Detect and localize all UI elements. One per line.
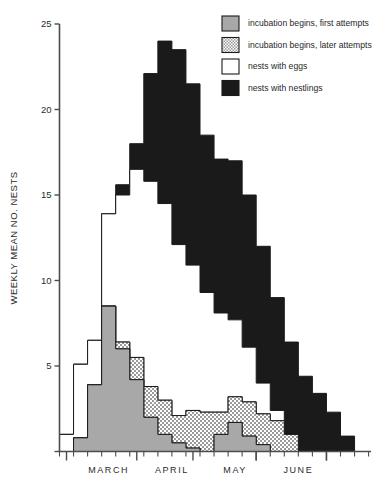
legend-swatch-solid-gray: [222, 16, 239, 31]
legend-label: nests with nestlings: [248, 83, 323, 93]
x-axis-label-march: MARCH: [88, 465, 129, 475]
y-tick-label-10: 10: [41, 275, 52, 286]
legend-swatch-checker-gray: [222, 38, 239, 53]
y-tick-label-5: 5: [46, 360, 51, 371]
legend-label: nests with eggs: [248, 61, 307, 71]
nest-phenology-chart: 510152025 MARCHAPRILMAYJUNE WEEKLY MEAN …: [0, 0, 392, 488]
chart-figure: 510152025 MARCHAPRILMAYJUNE WEEKLY MEAN …: [0, 0, 392, 488]
y-tick-label-25: 25: [41, 18, 52, 29]
x-axis-label-june: JUNE: [283, 465, 313, 475]
legend-swatch-white: [222, 59, 239, 74]
y-tick-label-20: 20: [41, 104, 52, 115]
legend-swatch-black: [222, 81, 239, 96]
y-axis-title: WEEKLY MEAN NO. NESTS: [8, 171, 19, 304]
y-tick-label-15: 15: [41, 189, 52, 200]
x-axis-label-april: APRIL: [155, 465, 189, 475]
legend-label: incubation begins, later attempts: [248, 40, 372, 50]
legend-label: incubation begins, first attempts: [248, 18, 369, 28]
x-axis-label-may: MAY: [223, 465, 247, 475]
